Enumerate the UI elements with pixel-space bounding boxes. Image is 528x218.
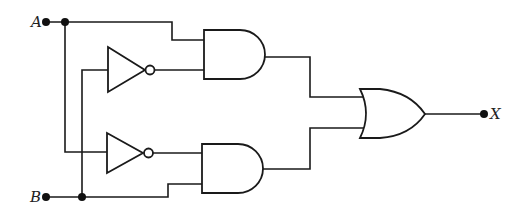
wire-and2-to-or xyxy=(263,128,364,169)
not-gate-2 xyxy=(107,133,153,173)
and-gate-1 xyxy=(204,30,265,79)
wire-a-to-and1 xyxy=(46,22,204,40)
logic-circuit-diagram: A B X xyxy=(0,0,528,218)
wire-b-to-and2 xyxy=(46,184,202,197)
and-gate-2 xyxy=(202,144,263,193)
wire-and1-to-or xyxy=(265,57,364,97)
not-gate-1 xyxy=(108,47,155,92)
label-x: X xyxy=(489,105,502,123)
wire-a-to-not2 xyxy=(65,22,107,152)
label-a: A xyxy=(29,13,42,31)
junction-a xyxy=(61,18,69,26)
label-b: B xyxy=(29,188,41,206)
wire-b-to-not1 xyxy=(82,70,108,197)
terminal-x xyxy=(480,110,488,118)
or-gate xyxy=(360,89,425,138)
junction-b xyxy=(78,193,86,201)
terminal-b xyxy=(42,193,50,201)
terminal-a xyxy=(42,18,50,26)
